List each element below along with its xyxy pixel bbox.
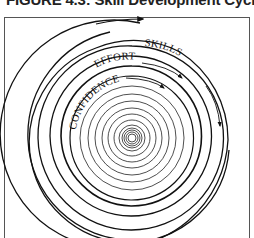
effort-arrow-icon (142, 63, 182, 78)
label-confidence: CONFIDENCE (67, 73, 121, 131)
label-skills: SKILLS (144, 37, 184, 58)
inner-rings (80, 86, 184, 190)
confidence-arrow-icon (126, 78, 164, 88)
flow-arrows (96, 19, 220, 126)
spiral-diagram: SKILLS EFFORT CONFIDENCE (0, 0, 254, 238)
